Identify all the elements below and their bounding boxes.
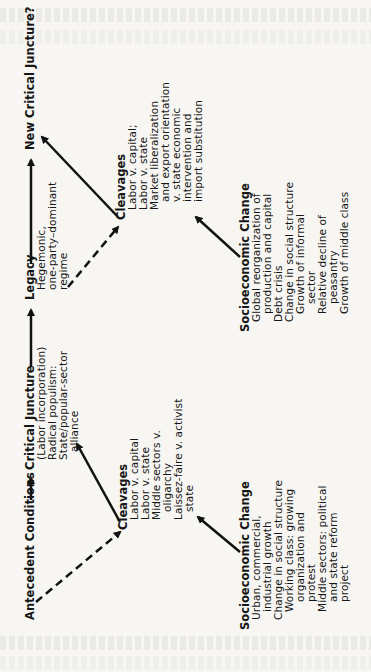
socioeconomic-change-late: Socioeconomic Change Global reorganizati… <box>240 182 350 332</box>
cleavages-late: Cleavages Labor v. capital; Labor v. sta… <box>116 82 204 220</box>
cleavage-line: state <box>184 399 195 530</box>
socio-line: project <box>339 480 350 630</box>
legacy-line: regime <box>58 182 69 300</box>
socio-line: organization and <box>295 480 306 630</box>
new-critical-juncture-title: New Critical Juncture? <box>25 7 36 150</box>
arrow-socio-to-cleavages-late <box>196 217 240 257</box>
arrow-legacy-to-cleavages-dashed <box>68 227 118 287</box>
socio-line: Growth of middle class <box>339 182 350 332</box>
legacy: Legacy Hegemonic, one-party–dominant reg… <box>25 182 69 300</box>
socio-line: Growth of informal <box>295 182 306 332</box>
diagram-canvas: Antecedent Conditions Critical Juncture … <box>0 0 371 672</box>
antecedent-title: Antecedent Conditions <box>25 472 36 620</box>
arrow-cleavages-to-juncture <box>77 444 120 522</box>
cleavage-line: import substitution <box>193 82 204 220</box>
socio-line: and state reform <box>328 480 339 630</box>
cleavages-early: Cleavages Labor v. capital Labor v. stat… <box>118 399 195 530</box>
new-critical-juncture: New Critical Juncture? <box>25 7 36 150</box>
arrow-socio-to-cleavages-early <box>198 517 240 552</box>
socioeconomic-change-early: Socioeconomic Change Urban, commercial, … <box>240 480 350 630</box>
antecedent-conditions: Antecedent Conditions <box>25 472 36 620</box>
critical-juncture: Critical Juncture (Labor incorporation) … <box>25 347 80 470</box>
critical-juncture-line: alliance <box>69 347 80 470</box>
arrow-antecedent-to-cleavages-dashed <box>36 532 120 602</box>
